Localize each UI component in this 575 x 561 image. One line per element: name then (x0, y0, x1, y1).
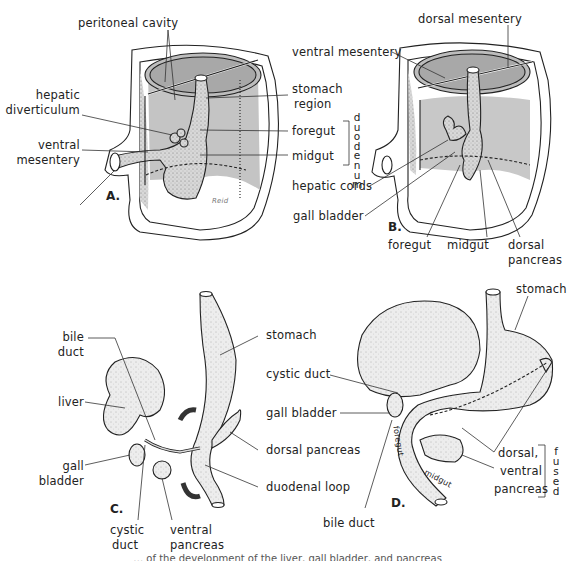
label-dorsal-mesentery: dorsal mesentery (418, 12, 522, 26)
label-hepatic-cords: hepatic cords (292, 179, 372, 193)
label-fused-vertical: fused (551, 446, 561, 496)
label-dorsal-pancreas-c: dorsal pancreas (266, 443, 361, 457)
label-gall-bladder-d: gall bladder (266, 406, 337, 420)
label-peritoneal-cavity: peritoneal cavity (78, 16, 178, 30)
label-ventral-mesentery-line2: mesentery (2, 153, 80, 167)
label-stomach-d: stomach (516, 282, 567, 296)
artist-signature: Reid (212, 194, 228, 208)
figure-caption-partial: … of the development of the liver, gall … (0, 553, 575, 561)
label-dorsal-ventral-pancreas-line2: ventral (500, 464, 542, 478)
panel-a-drawing (105, 45, 278, 240)
label-hepatic-diverticulum-line2: diverticulum (2, 103, 80, 117)
panel-label-a: A. (106, 189, 120, 203)
label-bile-duct-c-line2: duct (30, 345, 84, 359)
label-dorsal-pancreas-b-line1: dorsal (508, 238, 545, 252)
label-foregut-a: foregut (292, 124, 335, 138)
label-ventral-pancreas-c-line1: ventral (170, 523, 212, 537)
label-gall-bladder-c-line1: gall (20, 459, 84, 473)
panel-label-b: B. (388, 220, 402, 234)
label-stomach-c: stomach (266, 328, 317, 342)
label-cystic-duct-d: cystic duct (266, 367, 330, 381)
label-bile-duct-d: bile duct (323, 516, 375, 530)
label-cystic-duct-c-line2: duct (112, 538, 138, 552)
label-dorsal-pancreas-b-line2: pancreas (508, 253, 562, 267)
label-cystic-duct-c-line1: cystic (110, 523, 144, 537)
label-ventral-mesentery-b: ventral mesentery (292, 45, 401, 59)
label-ventral-mesentery-line1: ventral (2, 138, 80, 152)
panel-c-drawing (103, 292, 240, 508)
label-ventral-pancreas-c-line2: pancreas (170, 538, 224, 552)
panel-label-d: D. (391, 496, 406, 510)
panel-b-drawing (372, 43, 551, 240)
label-bile-duct-c-line1: bile (30, 330, 84, 344)
label-gall-bladder-c-line2: bladder (20, 474, 84, 488)
label-stomach-region-line2: region (294, 97, 332, 111)
label-liver-c: liver (30, 395, 84, 409)
panel-label-c: C. (110, 502, 123, 516)
label-duodenal-loop-c: duodenal loop (266, 480, 350, 494)
label-midgut-a: midgut (292, 149, 334, 163)
label-hepatic-diverticulum-line1: hepatic (2, 88, 80, 102)
label-midgut-b: midgut (447, 238, 489, 252)
label-gall-bladder-b: gall bladder (293, 209, 364, 223)
label-dorsal-ventral-pancreas-line3: pancreas (494, 482, 548, 496)
label-foregut-b: foregut (388, 238, 431, 252)
label-stomach-region-line1: stomach (292, 82, 343, 96)
label-dorsal-ventral-pancreas-line1: dorsal, (498, 446, 538, 460)
